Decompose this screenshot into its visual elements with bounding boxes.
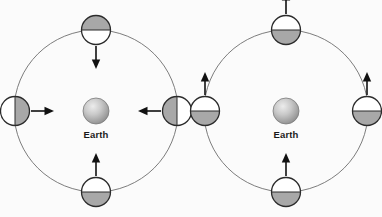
- arrow-up: [201, 72, 209, 95]
- moon-top: [272, 0, 301, 45]
- moon-bottom: [82, 153, 111, 207]
- earth-body: [273, 98, 299, 124]
- arrow-down: [92, 46, 100, 69]
- arrow-head: [92, 153, 100, 163]
- moon-right: [353, 72, 382, 126]
- synchronous-rotation-panel: Earth: [1, 16, 192, 207]
- panels-layer: EarthEarth: [1, 0, 382, 207]
- moon-shaded-hemisphere: [15, 97, 30, 126]
- arrow-left: [138, 107, 161, 115]
- earth-label: Earth: [84, 129, 109, 140]
- moon-shaded-hemisphere: [82, 16, 111, 30]
- arrow-head: [282, 153, 290, 163]
- moon-shaded-hemisphere: [82, 192, 111, 206]
- arrow-up: [282, 0, 290, 14]
- moon-shaded-hemisphere: [272, 30, 301, 45]
- earth-sphere: [83, 98, 109, 124]
- diagram-root: EarthEarth: [0, 0, 382, 217]
- arrow-head: [92, 60, 100, 70]
- moon-shaded-hemisphere: [272, 192, 301, 207]
- moon-shaded-hemisphere: [191, 111, 220, 126]
- moon-bottom: [272, 153, 301, 207]
- moon-left: [191, 72, 220, 126]
- arrow-head: [138, 107, 148, 115]
- moon-shaded-hemisphere: [353, 111, 382, 126]
- earth-label: Earth: [274, 129, 299, 140]
- arrow-head: [282, 0, 290, 1]
- earth-body: [83, 98, 109, 124]
- arrow-up: [363, 72, 371, 95]
- earth-sphere: [273, 98, 299, 124]
- arrow-head: [45, 107, 55, 115]
- arrow-up: [92, 153, 100, 176]
- arrow-head: [363, 72, 371, 82]
- moon-right: [138, 97, 192, 126]
- no-rotation-panel: Earth: [191, 0, 382, 207]
- moon-left: [1, 97, 55, 126]
- moon-top: [82, 16, 111, 70]
- diagram-canvas: EarthEarth: [0, 0, 382, 217]
- arrow-head: [201, 72, 209, 82]
- moon-shaded-hemisphere: [163, 97, 178, 126]
- arrow-up: [282, 153, 290, 176]
- arrow-right: [31, 107, 54, 115]
